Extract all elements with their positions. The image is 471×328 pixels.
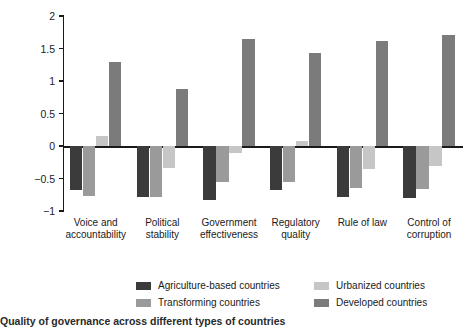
bar (83, 146, 95, 196)
legend-item[interactable]: Developed countries (314, 294, 427, 311)
bar (376, 41, 388, 146)
legend-swatch-icon (314, 299, 329, 307)
bar (442, 35, 454, 146)
y-tick-label: 1 (11, 76, 55, 87)
chart-legend: Agriculture-based countriesUrbanized cou… (136, 277, 466, 311)
bar (403, 146, 415, 198)
x-axis-label: Political stability (125, 217, 199, 240)
bar (70, 146, 82, 190)
plot-area: −1−0.500.511.52 (63, 16, 463, 211)
legend-label: Agriculture-based countries (158, 280, 280, 291)
bar-group (337, 16, 388, 211)
legend-swatch-icon (136, 282, 151, 290)
bar (242, 39, 254, 146)
bar (350, 146, 362, 188)
y-tick-label: −0.5 (11, 174, 55, 185)
x-axis-label: Government effectiveness (192, 217, 266, 240)
x-axis-label: Regulatory quality (259, 217, 333, 240)
bar (163, 146, 175, 168)
bar-group (137, 16, 188, 211)
y-tick-mark (59, 48, 64, 49)
bar (309, 53, 321, 146)
bar (216, 146, 228, 182)
y-tick-mark (59, 80, 64, 81)
bar (109, 62, 121, 146)
legend-item[interactable]: Urbanized countries (314, 277, 425, 294)
bar (96, 136, 108, 146)
bar-group (270, 16, 321, 211)
legend-row: Transforming countriesDeveloped countrie… (136, 294, 466, 311)
legend-swatch-icon (136, 299, 151, 307)
bar (429, 146, 441, 166)
bar-group (403, 16, 454, 211)
bar (296, 141, 308, 146)
legend-item[interactable]: Agriculture-based countries (136, 277, 314, 294)
bar (176, 89, 188, 146)
bar-group (70, 16, 121, 211)
bar (337, 146, 349, 197)
y-tick-mark (59, 113, 64, 114)
x-axis-label: Rule of law (325, 217, 399, 229)
legend-swatch-icon (314, 282, 329, 290)
bar (137, 146, 149, 197)
legend-label: Transforming countries (158, 297, 260, 308)
bar (416, 146, 428, 189)
y-tick-label: 2 (11, 11, 55, 22)
bar (270, 146, 282, 190)
legend-item[interactable]: Transforming countries (136, 294, 314, 311)
y-tick-mark (59, 145, 64, 146)
bar (229, 146, 241, 153)
y-tick-label: 0.5 (11, 109, 55, 120)
caption-text: Quality of governance across different t… (0, 315, 285, 327)
bar (203, 146, 215, 200)
y-tick-label: 0 (11, 141, 55, 152)
legend-label: Developed countries (336, 297, 427, 308)
figure-caption: Quality of governance across different t… (0, 315, 471, 328)
legend-label: Urbanized countries (336, 280, 425, 291)
x-axis-label: Control of corruption (392, 217, 466, 240)
y-tick-mark (59, 15, 64, 16)
bar (283, 146, 295, 182)
x-axis-label: Voice and accountability (59, 217, 133, 240)
bar (150, 146, 162, 197)
y-tick-label: −1 (11, 206, 55, 217)
y-tick-mark (59, 178, 64, 179)
legend-row: Agriculture-based countriesUrbanized cou… (136, 277, 466, 294)
bar (363, 146, 375, 169)
bar-group (203, 16, 254, 211)
y-tick-label: 1.5 (11, 44, 55, 55)
y-tick-mark (59, 210, 64, 211)
